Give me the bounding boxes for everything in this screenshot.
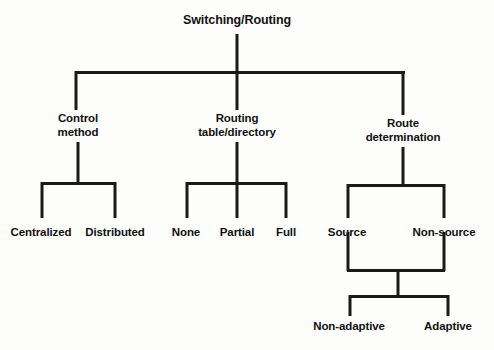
switching-routing-tree-diagram: Switching/Routing Control method Routing… bbox=[0, 0, 494, 350]
edge-split-left-drop bbox=[349, 295, 352, 316]
edge-route-bar bbox=[347, 184, 445, 187]
node-centralized: Centralized bbox=[11, 226, 72, 240]
node-switching-routing: Switching/Routing bbox=[183, 14, 291, 28]
edge-routing-mid-drop bbox=[236, 182, 239, 218]
edge-routing-right-drop bbox=[285, 182, 288, 218]
edge-source-drop bbox=[347, 232, 350, 271]
edge-control-stem bbox=[77, 142, 80, 184]
edge-control-bar bbox=[41, 182, 116, 185]
edge-non-source-drop bbox=[443, 232, 446, 271]
node-distributed: Distributed bbox=[85, 226, 145, 240]
edge-merge-stem bbox=[397, 269, 400, 297]
node-routing-table-directory: Routing table/directory bbox=[198, 112, 276, 139]
edge-routing-stem bbox=[236, 142, 239, 184]
edge-routing-left-drop bbox=[186, 182, 189, 218]
edge-root-stem bbox=[236, 34, 239, 73]
node-control-method: Control method bbox=[58, 112, 99, 139]
edge-split-bar bbox=[349, 295, 449, 298]
edge-split-right-drop bbox=[447, 295, 450, 316]
node-adaptive: Adaptive bbox=[424, 320, 472, 334]
node-route-determination: Route determination bbox=[366, 117, 441, 144]
node-partial: Partial bbox=[220, 226, 254, 240]
edge-branch-mid-drop bbox=[236, 71, 239, 110]
edge-branch-left-drop bbox=[75, 71, 78, 110]
node-full: Full bbox=[276, 226, 296, 240]
edge-level1-bar bbox=[75, 71, 405, 74]
edge-control-left-drop bbox=[41, 182, 44, 218]
edge-route-right-drop bbox=[443, 184, 446, 218]
node-non-adaptive: Non-adaptive bbox=[313, 320, 385, 334]
edge-route-left-drop bbox=[347, 184, 350, 218]
edge-route-stem bbox=[402, 147, 405, 185]
edge-branch-right-drop bbox=[402, 71, 405, 115]
node-none: None bbox=[172, 226, 200, 240]
edge-control-right-drop bbox=[114, 182, 117, 218]
